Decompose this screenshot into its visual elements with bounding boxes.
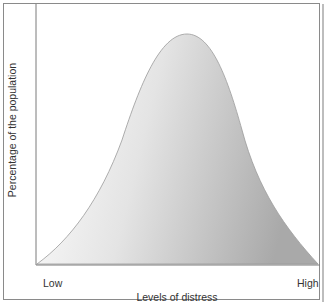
x-tick-high: High <box>297 277 319 289</box>
y-axis-label: Percentage of the population <box>6 60 18 200</box>
x-axis-label: Levels of distress <box>127 291 227 303</box>
bell-curve-area <box>37 34 318 264</box>
x-tick-low: Low <box>43 277 62 289</box>
distribution-plot <box>0 0 326 306</box>
